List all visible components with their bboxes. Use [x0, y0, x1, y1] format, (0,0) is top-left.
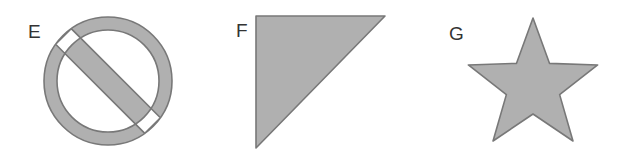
shape-figure-canvas: E F G	[0, 0, 625, 162]
right-triangle-shape	[256, 16, 385, 148]
shape-label-g: G	[449, 24, 464, 43]
five-pointed-star-svg	[0, 0, 625, 162]
prohibition-sign-shape	[44, 17, 172, 145]
right-triangle-svg	[0, 0, 625, 162]
shape-group-f	[0, 0, 625, 162]
shape-label-e: E	[28, 22, 41, 41]
prohibition-sign-svg	[0, 0, 625, 162]
five-pointed-star-shape	[468, 18, 597, 141]
shape-group-e	[0, 0, 625, 162]
shape-group-g	[0, 0, 625, 162]
shape-label-f: F	[236, 21, 248, 40]
